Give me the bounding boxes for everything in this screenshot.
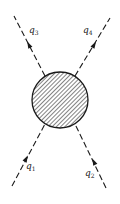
arrow-icon-q3: [25, 40, 32, 48]
label-q2: q2: [85, 168, 95, 179]
label-q1: q1: [26, 161, 36, 172]
label-q4: q4: [83, 25, 93, 36]
leg-q1-line: [12, 124, 45, 186]
interaction-blob: [32, 72, 88, 128]
scattering-diagram: q3 q4 q1 q2: [0, 0, 120, 204]
label-q3: q3: [29, 25, 39, 36]
